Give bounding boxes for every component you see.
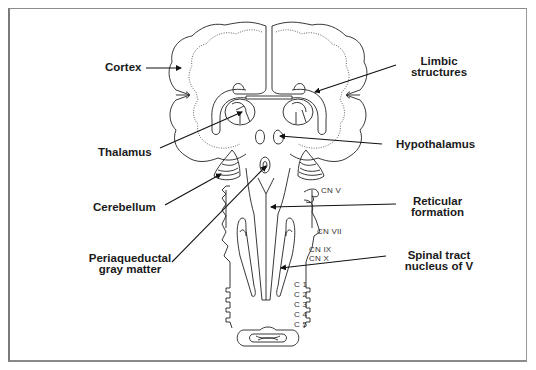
label-c2: C 2 xyxy=(294,290,307,299)
label-reticular-formation: Reticular formation xyxy=(405,196,470,218)
cerebellum-arrow xyxy=(165,174,221,205)
label-limbic-line2: structures xyxy=(404,67,474,78)
thalamus-shapes xyxy=(225,99,313,125)
label-thalamus: Thalamus xyxy=(98,147,152,158)
label-periaqueductal: Periaqueductal gray matter xyxy=(84,253,176,275)
label-limbic-structures: Limbic structures xyxy=(404,56,474,78)
label-spinal-line2: nucleus of V xyxy=(398,261,480,272)
thalamus-arrow xyxy=(160,112,242,148)
label-cn-vii: CN VII xyxy=(317,227,342,236)
hypothalamus-shapes xyxy=(256,130,284,144)
label-c4: C 4 xyxy=(294,310,307,319)
left-hemisphere xyxy=(169,22,266,161)
reticular-arrow xyxy=(271,204,396,207)
label-cerebellum: Cerebellum xyxy=(93,202,156,213)
label-cn-x: CN X xyxy=(309,254,329,263)
right-hemisphere xyxy=(272,22,367,161)
label-spinal-tract: Spinal tract nucleus of V xyxy=(398,250,480,272)
periaqueductal-arrow xyxy=(172,166,266,262)
label-c1: C 1 xyxy=(294,280,307,289)
limbic-arrow xyxy=(315,65,396,92)
hypothalamus-arrow xyxy=(280,136,382,144)
label-cn-ix: CN IX xyxy=(309,245,331,254)
label-c5: C 5 xyxy=(294,320,307,329)
label-hypothalamus: Hypothalamus xyxy=(396,139,475,150)
spinal-tract-arrow xyxy=(281,256,386,268)
label-cortex: Cortex xyxy=(105,62,141,73)
corpus-callosum xyxy=(233,26,305,99)
label-periaqueductal-line2: gray matter xyxy=(84,264,176,275)
label-cn-v: CN V xyxy=(321,186,341,195)
label-c3: C 3 xyxy=(294,300,307,309)
label-reticular-line2: formation xyxy=(405,207,470,218)
cerebellum-shapes xyxy=(214,150,324,180)
spinal-cord-section xyxy=(237,327,299,346)
